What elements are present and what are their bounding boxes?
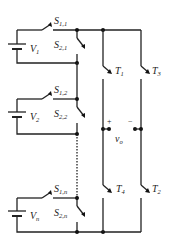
label-vn: Vn: [30, 210, 39, 222]
node-dot: [75, 97, 79, 101]
switch-t4-icon: [103, 130, 112, 232]
label-s22: S2,2: [54, 108, 68, 120]
switch-s22-icon: [77, 99, 85, 134]
switch-s2n-icon: [77, 198, 85, 232]
battery-vn-icon: [8, 198, 141, 232]
label-vo: vo: [115, 133, 123, 145]
label-v2: V2: [30, 111, 40, 123]
label-s21: S2,1: [54, 39, 67, 51]
switch-t2-icon: [141, 130, 150, 232]
node-dot: [75, 230, 79, 234]
label-s2n: S2,n: [54, 207, 67, 219]
switch-t1-icon: [103, 30, 112, 130]
label-s1n: S1,n: [54, 183, 67, 195]
node-dot: [75, 28, 79, 32]
switch-t3-icon: [141, 30, 150, 130]
output-terminals: [101, 127, 143, 131]
label-t3: T3: [152, 65, 162, 77]
label-s11: S1,1: [54, 15, 67, 27]
label-t4: T4: [116, 183, 126, 195]
output-plus: +: [107, 117, 112, 126]
node-dot: [75, 196, 79, 200]
label-s12: S1,2: [54, 84, 68, 96]
node-dot: [75, 132, 79, 136]
label-t1: T1: [115, 65, 124, 77]
label-t2: T2: [152, 183, 162, 195]
switch-s21-icon: [77, 30, 85, 63]
circuit-diagram: V1 S1,1 S2,1 V2 S1,2 S2,2: [0, 0, 172, 249]
h-bridge: T1 T3 T4 T2: [101, 28, 162, 234]
cell-1: V1 S1,1 S2,1: [8, 15, 141, 65]
label-v1: V1: [30, 43, 39, 55]
output-minus: −: [128, 117, 133, 126]
cell-2: V2 S1,2 S2,2: [8, 63, 85, 136]
